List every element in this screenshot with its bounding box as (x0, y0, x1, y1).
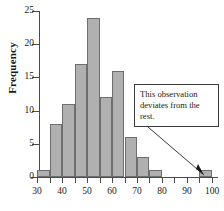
x-tick-mark (37, 178, 38, 183)
y-tick-label: 20 (10, 39, 34, 48)
x-tick-label: 60 (100, 186, 124, 196)
histogram-bar (37, 170, 49, 177)
histogram-bar (100, 97, 112, 177)
x-tick-label: 80 (150, 186, 174, 196)
y-axis-line (39, 11, 40, 178)
x-tick-label: 40 (50, 186, 74, 196)
histogram-bar (50, 124, 62, 177)
x-tick-mark-minor (125, 178, 126, 183)
x-tick-mark (62, 178, 63, 183)
histogram-bar (112, 71, 124, 177)
histogram-bar (62, 104, 74, 177)
y-tick-label: 25 (10, 6, 34, 15)
x-tick-mark (87, 178, 88, 183)
x-tick-label: 90 (175, 186, 199, 196)
x-tick-mark-minor (50, 178, 51, 183)
x-tick-mark-minor (100, 178, 101, 183)
x-tick-label: 70 (125, 186, 149, 196)
y-tick-label: 5 (10, 139, 34, 148)
x-tick-label: 30 (25, 186, 49, 196)
histogram-bar (75, 64, 87, 177)
x-tick-mark (112, 178, 113, 183)
y-tick-label: 0 (10, 172, 34, 181)
x-tick-mark-minor (75, 178, 76, 183)
histogram-chart: Frequency 0510152025 30405060708090100 T… (0, 0, 224, 211)
x-tick-label: 50 (75, 186, 99, 196)
y-tick-label: 15 (10, 72, 34, 81)
annotation-callout: This observation deviates from the rest. (134, 84, 219, 127)
x-tick-label: 100 (200, 186, 224, 196)
histogram-bar (87, 18, 99, 177)
y-tick-label: 10 (10, 106, 34, 115)
